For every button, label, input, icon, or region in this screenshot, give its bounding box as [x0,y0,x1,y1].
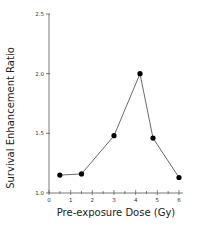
x-tick-label: 6 [177,197,181,203]
x-ticks: 0123456 [47,190,181,203]
data-point-marker [137,71,142,76]
y-ticks: 1.01.52.02.5 [35,11,50,196]
y-tick-label: 1.5 [35,130,44,136]
x-axis-title: Pre-exposure Dose (Gy) [57,207,176,218]
data-point-marker [57,173,62,178]
y-tick-label: 2.5 [35,11,44,17]
data-point-marker [176,175,181,180]
y-axis-title: Survival Enhancement Ratio [5,47,16,189]
y-tick-label: 1.0 [35,190,44,196]
axes [49,14,183,193]
x-tick-label: 0 [47,197,51,203]
x-tick-label: 1 [69,197,73,203]
y-tick-label: 2.0 [35,71,44,77]
x-tick-label: 3 [112,197,116,203]
data-point-marker [79,171,84,176]
data-point-marker [111,133,116,138]
chart: 1.01.52.02.5 0123456 Pre-exposure Dose (… [0,0,199,233]
data-series [57,71,181,180]
x-tick-label: 2 [91,197,95,203]
x-tick-label: 4 [134,197,138,203]
series-line [60,74,179,178]
x-tick-label: 5 [156,197,160,203]
data-point-marker [150,136,155,141]
